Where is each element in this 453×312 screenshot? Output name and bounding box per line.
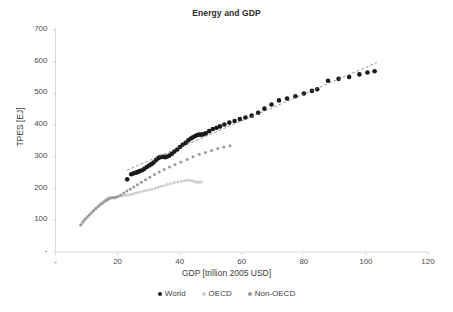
data-point xyxy=(153,173,156,176)
data-point xyxy=(227,120,232,125)
data-point xyxy=(122,192,125,195)
data-point xyxy=(179,160,182,163)
data-point xyxy=(277,98,282,103)
data-point xyxy=(132,185,135,188)
x-tick-label: 40 xyxy=(165,257,195,266)
data-point xyxy=(216,147,219,150)
x-tick-label: 120 xyxy=(413,257,443,266)
data-point xyxy=(148,188,151,191)
legend-item-oecd[interactable]: OECD xyxy=(202,289,232,298)
data-point xyxy=(148,176,151,179)
data-point xyxy=(210,149,213,152)
data-point xyxy=(222,122,227,127)
legend-item-world[interactable]: World xyxy=(158,289,186,298)
data-point xyxy=(357,72,362,77)
data-point xyxy=(125,190,128,193)
y-tick-label: 300 xyxy=(18,151,48,160)
data-point xyxy=(238,117,243,122)
y-tick-label: 600 xyxy=(18,56,48,65)
data-point xyxy=(269,102,274,107)
x-tick-label: 80 xyxy=(289,257,319,266)
x-tick-label: 60 xyxy=(227,257,257,266)
legend-item-non-oecd[interactable]: Non-OECD xyxy=(248,289,295,298)
data-point xyxy=(372,69,377,74)
data-point xyxy=(163,168,166,171)
data-point xyxy=(142,190,145,193)
series-non-oecd xyxy=(79,144,231,226)
series-world xyxy=(125,69,377,182)
chart-legend: WorldOECDNon-OECD xyxy=(0,289,453,298)
y-tick-label: - xyxy=(18,246,48,255)
series-oecd xyxy=(79,179,203,227)
x-tick-label: 20 xyxy=(103,257,133,266)
data-point xyxy=(174,163,177,166)
y-tick-label: 100 xyxy=(18,214,48,223)
data-point xyxy=(365,70,370,75)
x-tick-label: - xyxy=(41,257,71,266)
x-tick-label: 100 xyxy=(351,257,381,266)
data-point xyxy=(86,216,89,219)
data-point xyxy=(82,220,85,223)
data-point xyxy=(129,188,132,191)
world-trendline xyxy=(127,63,377,171)
data-point xyxy=(326,78,331,83)
data-point xyxy=(293,94,298,99)
data-point xyxy=(204,151,207,154)
data-point xyxy=(169,182,172,185)
data-point xyxy=(180,180,183,183)
data-point xyxy=(119,193,122,196)
legend-label: Non-OECD xyxy=(255,289,295,298)
data-point xyxy=(183,179,186,182)
data-point xyxy=(144,178,147,181)
y-tick-label: 200 xyxy=(18,183,48,192)
data-point xyxy=(176,180,179,183)
data-point xyxy=(90,211,93,214)
data-point xyxy=(139,190,142,193)
data-point xyxy=(88,213,91,216)
data-point xyxy=(218,124,223,129)
data-point xyxy=(198,153,201,156)
data-point xyxy=(116,195,119,198)
data-point xyxy=(163,184,166,187)
data-point xyxy=(145,189,148,192)
data-point xyxy=(79,223,82,226)
data-point xyxy=(151,188,154,191)
data-point xyxy=(157,186,160,189)
data-point xyxy=(160,185,163,188)
legend-marker-icon xyxy=(158,292,162,296)
data-point xyxy=(222,146,225,149)
legend-marker-icon xyxy=(202,292,206,296)
x-axis-title: GDP [trillion 2005 USD] xyxy=(0,268,453,278)
y-tick-label: 700 xyxy=(18,24,48,33)
legend-label: World xyxy=(165,289,186,298)
data-point xyxy=(166,183,169,186)
data-point xyxy=(232,119,237,124)
data-point xyxy=(200,180,203,183)
data-point xyxy=(125,177,130,182)
data-point xyxy=(83,218,86,221)
data-point xyxy=(136,183,139,186)
y-tick-label: 500 xyxy=(18,87,48,96)
data-point xyxy=(228,144,231,147)
data-point xyxy=(285,96,290,101)
y-tick-label: 400 xyxy=(18,119,48,128)
legend-marker-icon xyxy=(248,292,252,296)
data-point xyxy=(243,115,248,120)
data-point xyxy=(173,181,176,184)
data-point xyxy=(192,155,195,158)
data-point xyxy=(140,181,143,184)
data-point xyxy=(154,187,157,190)
data-point xyxy=(158,171,161,174)
data-point xyxy=(186,158,189,161)
chart-container: Energy and GDP TPES [EJ] GDP [trillion 2… xyxy=(0,0,453,312)
legend-label: OECD xyxy=(209,289,232,298)
data-point xyxy=(168,166,171,169)
